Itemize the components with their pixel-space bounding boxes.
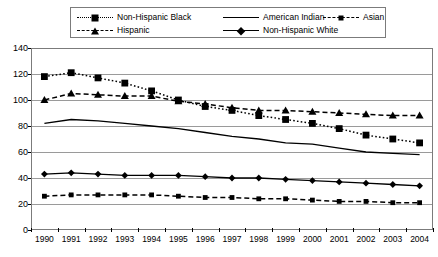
data-point-marker-small-square (390, 200, 395, 205)
data-point-marker-diamond (121, 172, 128, 179)
legend-item-non-hispanic-white[interactable]: Non-Hispanic White (223, 24, 338, 37)
legend-marker-triangle-icon (91, 27, 99, 34)
data-point-marker-small-square (203, 195, 208, 200)
legend-item-american-indian[interactable]: American Indian (223, 11, 324, 24)
series-hispanic (40, 90, 423, 119)
x-axis-tick-label: 1990 (35, 235, 54, 244)
y-axis-tick-label: 20 (2, 200, 28, 209)
chart-legend: Non-Hispanic BlackHispanicAmerican India… (70, 7, 386, 38)
x-axis-tick-mark (379, 228, 380, 232)
data-point-marker-small-square (256, 196, 261, 201)
y-axis-tick-label: 40 (2, 174, 28, 183)
x-axis-tick-label: 1997 (223, 235, 242, 244)
x-axis-tick-mark (85, 228, 86, 232)
x-axis-tick-mark (138, 228, 139, 232)
x-axis-tick-mark (165, 228, 166, 232)
data-point-marker-small-square (310, 198, 315, 203)
x-axis-tick-mark (272, 228, 273, 232)
y-axis-tick-label: 120 (2, 70, 28, 79)
data-point-marker-square (68, 69, 75, 76)
legend-grid: Non-Hispanic BlackHispanicAmerican India… (71, 8, 385, 37)
x-axis-tick-label: 1994 (142, 235, 161, 244)
legend-label: American Indian (263, 13, 324, 22)
data-point-marker-diamond (175, 172, 182, 179)
legend-item-non-hispanic-black[interactable]: Non-Hispanic Black (77, 11, 191, 24)
legend-marker-small-square-icon (339, 15, 344, 20)
x-axis-tick-label: 1992 (89, 235, 108, 244)
data-point-marker-square (416, 140, 423, 147)
data-point-marker-square (309, 120, 316, 127)
data-point-marker-diamond (282, 176, 289, 183)
data-point-marker-small-square (417, 200, 422, 205)
y-axis-tick-label: 140 (2, 44, 28, 53)
x-axis-tick-mark (433, 228, 434, 232)
legend-marker-diamond-icon (237, 27, 245, 35)
x-axis-tick-mark (326, 228, 327, 232)
data-point-marker-square (363, 132, 370, 139)
data-point-marker-small-square (96, 193, 101, 198)
legend-item-asian[interactable]: Asian (323, 11, 384, 24)
data-point-marker-diamond (229, 175, 236, 182)
legend-item-hispanic[interactable]: Hispanic (77, 24, 150, 37)
x-axis-tick-label: 2001 (330, 235, 349, 244)
x-axis-tick-mark (219, 228, 220, 232)
x-axis-tick-label: 1993 (115, 235, 134, 244)
x-axis-tick-label: 2002 (357, 235, 376, 244)
legend-swatch-dotted-square (77, 12, 113, 23)
x-axis-tick-label: 1995 (169, 235, 188, 244)
y-axis-tick-label: 80 (2, 122, 28, 131)
x-axis: 1990199119921993199419951996199719981999… (31, 232, 433, 254)
data-point-marker-small-square (149, 193, 154, 198)
series-asian (42, 193, 422, 206)
data-point-marker-small-square (176, 194, 181, 199)
data-point-marker-square (121, 80, 128, 87)
data-point-marker-small-square (337, 199, 342, 204)
data-point-marker-diamond (68, 169, 75, 176)
legend-label: Asian (363, 13, 384, 22)
x-axis-tick-mark (299, 228, 300, 232)
data-point-marker-square (389, 136, 396, 143)
x-axis-tick-label: 2000 (303, 235, 322, 244)
data-point-marker-small-square (122, 193, 127, 198)
x-axis-tick-label: 1999 (276, 235, 295, 244)
x-axis-tick-label: 1998 (249, 235, 268, 244)
y-axis-tick-label: 100 (2, 96, 28, 105)
data-point-marker-diamond (95, 171, 102, 178)
data-point-marker-diamond (202, 173, 209, 180)
data-point-marker-small-square (42, 194, 47, 199)
data-point-marker-diamond (148, 172, 155, 179)
y-axis: 020406080100120140 (0, 48, 28, 230)
legend-label: Hispanic (117, 26, 150, 35)
x-axis-tick-label: 1991 (62, 235, 81, 244)
legend-marker-square-icon (92, 14, 99, 21)
data-point-marker-diamond (336, 179, 343, 186)
data-point-marker-diamond (255, 175, 262, 182)
data-point-marker-diamond (416, 182, 423, 189)
data-point-marker-square (336, 125, 343, 132)
chart-root: Non-Hispanic BlackHispanicAmerican India… (0, 0, 438, 257)
data-point-marker-diamond (309, 177, 316, 184)
x-axis-tick-mark (111, 228, 112, 232)
y-axis-tick-label: 0 (2, 226, 28, 235)
data-point-marker-square (41, 73, 48, 80)
x-axis-tick-mark (245, 228, 246, 232)
data-point-marker-square (95, 75, 102, 82)
legend-swatch-dashed-small-square (323, 12, 359, 23)
data-point-marker-diamond (389, 181, 396, 188)
x-axis-tick-mark (31, 228, 32, 232)
series-layer (31, 48, 433, 230)
x-axis-tick-mark (406, 228, 407, 232)
data-point-marker-square (282, 116, 289, 123)
x-axis-tick-label: 2004 (410, 235, 429, 244)
legend-swatch-dashed-triangle (77, 25, 113, 36)
series-non-hispanic-white (41, 169, 423, 189)
x-axis-tick-mark (58, 228, 59, 232)
data-point-marker-diamond (41, 171, 48, 178)
data-point-marker-small-square (283, 196, 288, 201)
data-point-marker-triangle (67, 90, 75, 97)
legend-label: Non-Hispanic White (263, 26, 338, 35)
data-point-marker-small-square (230, 195, 235, 200)
x-axis-tick-mark (353, 228, 354, 232)
legend-swatch-solid-diamond (223, 25, 259, 36)
data-point-marker-small-square (69, 193, 74, 198)
